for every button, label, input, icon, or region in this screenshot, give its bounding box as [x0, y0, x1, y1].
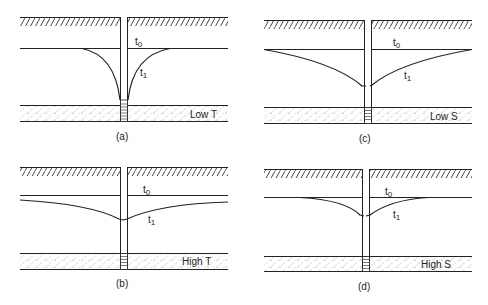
- panel-c: t0 t1 Low S (c): [264, 20, 472, 144]
- svg-text:t0: t0: [135, 36, 143, 49]
- aquifer-label: High S: [421, 259, 451, 270]
- panel-caption: (c): [359, 133, 371, 144]
- svg-text:t1: t1: [140, 67, 148, 80]
- panel-d: t0 t1 High S (d): [264, 169, 472, 292]
- aquifer-label: Low S: [430, 111, 458, 122]
- panel-caption: (a): [116, 131, 128, 142]
- panel-caption: (b): [116, 278, 128, 289]
- aquifer-label: Low T: [190, 109, 217, 120]
- aquifer-label: High T: [182, 256, 211, 267]
- svg-text:t1: t1: [393, 209, 401, 222]
- svg-text:t0: t0: [393, 37, 401, 50]
- panel-caption: (d): [358, 281, 370, 292]
- svg-text:t1: t1: [148, 214, 156, 227]
- panel-b: t0 t1 High T (b): [20, 167, 228, 289]
- panel-a: t0 t1 Low T (a): [20, 17, 228, 142]
- svg-text:t1: t1: [404, 70, 412, 83]
